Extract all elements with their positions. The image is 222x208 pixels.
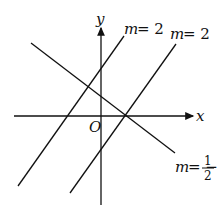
line-slope-2-left	[18, 36, 124, 186]
slope-label-neg-half-eq: = −	[188, 158, 218, 176]
line-slope-2-right	[70, 44, 176, 193]
slope-label-left-eq: = 2	[137, 20, 164, 38]
coordinate-diagram: x y O m = 2 m = 2 m = − 1 2	[0, 0, 222, 208]
slope-label-right-eq: = 2	[183, 25, 210, 43]
y-axis-label: y	[95, 10, 105, 28]
slope-fraction-denominator: 2	[204, 169, 212, 183]
origin-label: O	[89, 118, 101, 136]
slope-fraction-numerator: 1	[204, 154, 212, 168]
x-axis-label: x	[196, 107, 205, 125]
